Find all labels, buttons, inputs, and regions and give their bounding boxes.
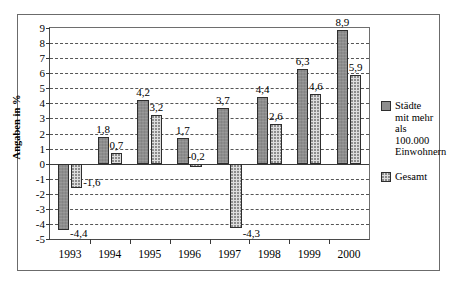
x-axis-tick-label: 1998 <box>249 248 289 260</box>
y-axis-tick-label: 5 <box>40 83 46 94</box>
y-axis-tick-mark <box>46 239 50 240</box>
bar-value-label: 6,3 <box>296 56 310 67</box>
bar <box>297 69 308 164</box>
bar-value-label: 4,2 <box>136 87 150 98</box>
category-group: 20008,95,9 <box>329 28 369 239</box>
bar-value-label: -4,4 <box>70 228 87 239</box>
bar-value-label: 1,7 <box>176 125 190 136</box>
bar <box>111 153 122 164</box>
x-axis-tick-label: 1996 <box>170 248 210 260</box>
bar <box>310 94 321 163</box>
x-axis-tick-mark <box>210 239 211 244</box>
bar-value-label: 3,7 <box>216 95 230 106</box>
category-group: 19973,7-4,3 <box>210 28 250 239</box>
chart-legend: Städtemit mehrals 100.000EinwohnernGesam… <box>381 100 441 196</box>
y-axis-tick-label: 1 <box>40 143 46 154</box>
legend-entry: Gesamt <box>381 171 441 183</box>
x-axis-tick-label: 1993 <box>50 248 90 260</box>
bar-value-label: 4,6 <box>309 81 323 92</box>
y-axis-tick-label: -1 <box>36 173 45 184</box>
category-group: 19984,42,6 <box>249 28 289 239</box>
category-group: 19954,23,2 <box>130 28 170 239</box>
y-axis-tick-label: 8 <box>40 38 46 49</box>
bar <box>230 164 241 229</box>
x-axis-tick-mark <box>249 239 250 244</box>
x-axis-tick-label: 1999 <box>289 248 329 260</box>
bar <box>257 97 268 163</box>
y-axis-tick-label: -4 <box>36 218 45 229</box>
legend-entry: Städtemit mehrals 100.000Einwohnern <box>381 100 441 158</box>
y-axis-tick-label: -3 <box>36 203 45 214</box>
y-axis-tick-label: 0 <box>40 158 46 169</box>
x-axis-tick-mark <box>329 239 330 244</box>
x-axis-tick-label: 1994 <box>90 248 130 260</box>
category-group: 19996,34,6 <box>289 28 329 239</box>
bar-value-label: 1,8 <box>96 124 110 135</box>
y-axis-tick-label: 4 <box>40 98 46 109</box>
category-group: 19961,7-0,2 <box>170 28 210 239</box>
x-axis-tick-mark <box>170 239 171 244</box>
bar-value-label: 2,6 <box>269 111 283 122</box>
bar-chart: Angaben in % 9876543210-1-2-3-4-51993-4,… <box>0 0 457 291</box>
y-axis-tick-label: 7 <box>40 53 46 64</box>
y-axis-tick-label: 3 <box>40 113 46 124</box>
bar-value-label: -0,2 <box>187 151 204 162</box>
bar-value-label: 4,4 <box>256 84 270 95</box>
y-axis-tick-label: -2 <box>36 188 45 199</box>
legend-label: Gesamt <box>395 171 441 183</box>
bar <box>350 75 361 164</box>
bar <box>58 164 69 230</box>
bar <box>217 108 228 164</box>
bar <box>190 164 201 167</box>
bar <box>151 115 162 163</box>
bar <box>71 164 82 188</box>
bar-value-label: 3,2 <box>149 102 163 113</box>
bar-value-label: 5,9 <box>349 62 363 73</box>
x-axis-tick-mark <box>90 239 91 244</box>
category-group: 1993-4,4-1,6 <box>50 28 90 239</box>
x-axis-tick-label: 2000 <box>329 248 369 260</box>
y-axis-tick-label: -5 <box>36 234 45 245</box>
plot-area: 9876543210-1-2-3-4-51993-4,4-1,619941,80… <box>49 27 370 240</box>
x-axis-tick-label: 1997 <box>210 248 250 260</box>
bar <box>98 137 109 164</box>
legend-swatch <box>381 172 391 182</box>
bar <box>137 100 148 163</box>
legend-label: Städtemit mehrals 100.000Einwohnern <box>395 100 441 158</box>
x-axis-tick-label: 1995 <box>130 248 170 260</box>
x-axis-tick-mark <box>130 239 131 244</box>
y-axis-tick-label: 6 <box>40 68 46 79</box>
y-axis-title: Angaben in % <box>11 95 22 160</box>
bar <box>337 30 348 164</box>
x-axis-tick-mark <box>289 239 290 244</box>
bar <box>270 124 281 163</box>
y-axis-tick-label: 2 <box>40 128 46 139</box>
category-group: 19941,80,7 <box>90 28 130 239</box>
legend-swatch <box>381 101 391 111</box>
bar-value-label: 8,9 <box>336 17 350 28</box>
bar-value-label: 0,7 <box>110 140 124 151</box>
y-axis-tick-label: 9 <box>40 23 46 34</box>
